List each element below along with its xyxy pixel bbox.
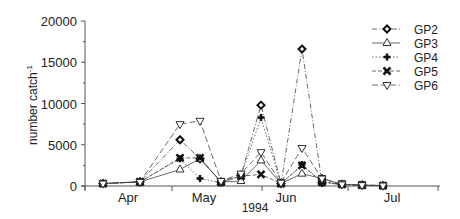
legend-item-gp2: GP2 — [372, 23, 438, 37]
triangle-up-marker — [176, 165, 184, 172]
series-line — [103, 49, 383, 186]
legend-label: GP4 — [414, 51, 438, 65]
legend-item-gp6: GP6 — [372, 79, 438, 93]
x-tick-label: Jun — [276, 190, 297, 205]
y-tick-label: 15000 — [41, 55, 77, 70]
plus-marker — [197, 175, 204, 182]
diamond-marker — [177, 136, 184, 143]
line-chart: 05000100001500020000AprMayJunJul GP2GP3G… — [0, 0, 460, 219]
legend-label: GP2 — [414, 23, 438, 37]
x-axis-title: 1994 — [242, 201, 269, 215]
diamond-marker — [258, 102, 265, 109]
x-tick-label: Jul — [384, 190, 401, 205]
legend-item-gp5: GP5 — [372, 65, 438, 79]
legend-item-gp3: GP3 — [372, 37, 438, 51]
series-group — [99, 46, 387, 191]
y-tick-label: 10000 — [41, 97, 77, 112]
legend: GP2GP3GP4GP5GP6 — [372, 23, 438, 93]
legend-label: GP3 — [414, 37, 438, 51]
plus-marker — [384, 54, 391, 61]
triangle-down-marker — [383, 83, 391, 90]
x-marker — [258, 171, 265, 178]
triangle-down-marker — [196, 118, 204, 125]
series-gp2 — [100, 46, 387, 190]
y-tick-label: 0 — [70, 179, 77, 194]
legend-item-gp4: GP4 — [372, 51, 438, 65]
triangle-down-marker — [298, 146, 306, 153]
diamond-marker — [384, 26, 391, 33]
y-axis-title: number catch-1 — [25, 65, 40, 145]
legend-label: GP6 — [414, 79, 438, 93]
triangle-up-marker — [298, 169, 306, 176]
triangle-up-marker — [383, 39, 391, 46]
diamond-marker — [299, 46, 306, 53]
y-tick-label: 20000 — [41, 14, 77, 29]
y-tick-label: 5000 — [48, 138, 77, 153]
legend-label: GP5 — [414, 65, 438, 79]
x-tick-label: Apr — [118, 190, 139, 205]
x-tick-label: May — [192, 190, 217, 205]
